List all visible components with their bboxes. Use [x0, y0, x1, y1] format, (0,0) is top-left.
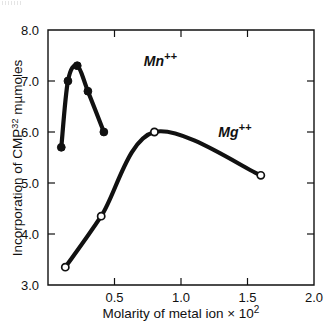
series-annotations: Mn++Mg++ [144, 50, 252, 140]
series-label-mnpp: Mn++ [144, 50, 178, 69]
line-chart: 0.51.01.52.0 3.04.05.06.07.08.0 Molarity… [0, 0, 334, 331]
data-point [84, 87, 92, 95]
x-tick-label: 2.0 [305, 290, 323, 305]
scan-artifact [2, 1, 22, 5]
data-point [151, 128, 158, 135]
data-point [73, 62, 81, 70]
y-axis-title: Incorporation of CMP32 mµmoles [10, 60, 25, 257]
x-tick-label: 1.0 [172, 290, 190, 305]
series-mnpp [57, 62, 107, 151]
axis-frame [48, 30, 314, 285]
x-tick-label: 1.5 [238, 290, 256, 305]
x-axis-title: Molarity of metal ion × 102 [103, 304, 260, 321]
x-axis-title-text: Molarity of metal ion × 102 [103, 304, 260, 321]
data-point [98, 213, 105, 220]
data-point [100, 128, 108, 136]
x-tick-label: 0.5 [105, 290, 123, 305]
y-axis-title-text: Incorporation of CMP32 mµmoles [10, 60, 25, 257]
data-point [62, 264, 69, 271]
data-point [257, 172, 264, 179]
y-tick-label: 8.0 [21, 23, 39, 38]
data-point [64, 77, 72, 85]
x-axis-tick-labels: 0.51.01.52.0 [105, 290, 323, 305]
series-mgpp [62, 128, 265, 270]
figure-container: 0.51.01.52.0 3.04.05.06.07.08.0 Molarity… [0, 0, 334, 331]
y-axis-ticks [48, 81, 314, 234]
data-point [57, 143, 65, 151]
series-label-mgpp: Mg++ [218, 121, 252, 140]
data-series-layer [57, 62, 264, 271]
y-tick-label: 3.0 [21, 278, 39, 293]
